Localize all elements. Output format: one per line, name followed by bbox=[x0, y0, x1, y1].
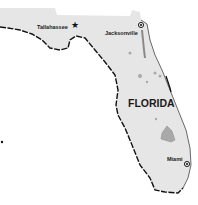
lake bbox=[159, 75, 162, 78]
city-label-tallahassee: Tallahassee bbox=[37, 24, 68, 30]
lake bbox=[155, 118, 157, 120]
state-label: FLORIDA bbox=[128, 97, 175, 109]
lake bbox=[146, 81, 148, 83]
city-label-miami: Miami bbox=[167, 156, 183, 162]
island-dot bbox=[1, 141, 3, 143]
lake bbox=[138, 74, 142, 78]
star-icon: ★ bbox=[71, 20, 79, 30]
city-label-jacksonville: Jacksonville bbox=[105, 30, 138, 36]
florida-map: Tallahassee ★ Jacksonville FLORIDA Miami bbox=[0, 0, 198, 205]
lake bbox=[154, 72, 157, 75]
lake bbox=[129, 52, 132, 55]
